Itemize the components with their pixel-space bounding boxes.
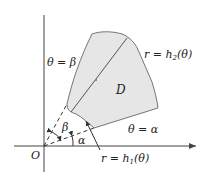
ray-alpha-dashed bbox=[44, 128, 94, 146]
label-beta: β bbox=[61, 121, 68, 134]
region-d bbox=[67, 32, 158, 128]
label-theta-beta: θ = β bbox=[47, 56, 76, 69]
alpha-arc bbox=[72, 136, 73, 146]
label-r-h2: r = h2(θ) bbox=[144, 48, 192, 62]
beta-arc bbox=[52, 132, 61, 141]
label-region-d: D bbox=[115, 83, 126, 97]
label-alpha: α bbox=[78, 134, 86, 147]
midpoint-dot bbox=[95, 79, 97, 81]
label-r-h1: r = h1(θ) bbox=[101, 152, 149, 166]
polar-region-diagram: θ = β θ = α r = h2(θ) r = h1(θ) D O β α bbox=[0, 0, 207, 178]
label-theta-alpha: θ = α bbox=[128, 123, 159, 136]
label-origin: O bbox=[31, 149, 40, 162]
